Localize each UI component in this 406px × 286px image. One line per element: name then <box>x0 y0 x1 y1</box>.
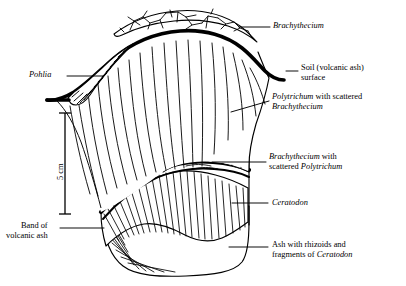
label-soil-surface-text-1: Soil (volcanic ash) <box>301 63 364 72</box>
label-soil-surface-text-2: surface <box>301 73 325 82</box>
label-ceratodon-zone: Ceratodon <box>272 198 308 208</box>
label-brachythecium-cap-text: Brachythecium <box>273 21 324 30</box>
label-ceratodon-zone-text: Ceratodon <box>272 198 308 207</box>
label-ash-rhizoids-line2: fragments of Ceratodon <box>272 250 352 260</box>
label-ash-rhizoids: Ash with rhizoids and fragments of Cerat… <box>272 240 352 261</box>
label-ash-rhizoids-text-2: fragments of <box>272 250 317 259</box>
label-brachythecium-wedge-genus: Brachythecium <box>269 152 320 161</box>
label-volcanic-ash-band: Band of volcanic ash <box>6 221 48 242</box>
label-brachythecium-wedge-line2: scattered Polytrichum <box>269 162 342 172</box>
label-ash-rhizoids-line1: Ash with rhizoids and <box>272 240 352 250</box>
label-pohlia-zone: Pohlia <box>29 70 51 80</box>
label-polytrichum-zone-associate: Brachythecium <box>272 102 323 111</box>
label-soil-surface-line1: Soil (volcanic ash) <box>301 63 364 73</box>
label-polytrichum-zone: Polytrichum with scattered Brachythecium <box>272 92 362 113</box>
label-volcanic-ash-band-text-1: Band of <box>21 221 48 230</box>
label-polytrichum-zone-genus: Polytrichum <box>272 92 313 101</box>
label-volcanic-ash-band-text-2: volcanic ash <box>6 231 48 240</box>
label-brachythecium-wedge-line1: Brachythecium with <box>269 152 342 162</box>
label-pohlia-zone-text: Pohlia <box>29 70 51 79</box>
label-brachythecium-wedge-qualifier: with <box>320 152 337 161</box>
label-soil-surface-line2: surface <box>301 73 364 83</box>
label-brachythecium-wedge-scattered: scattered <box>269 162 301 171</box>
label-soil-surface: Soil (volcanic ash) surface <box>301 63 364 84</box>
label-volcanic-ash-band-line2: volcanic ash <box>6 231 48 241</box>
label-brachythecium-cap: Brachythecium <box>273 21 324 31</box>
label-ash-rhizoids-genus: Ceratodon <box>317 250 353 259</box>
label-polytrichum-zone-line2: Brachythecium <box>272 102 362 112</box>
figure-canvas: Brachythecium Soil (volcanic ash) surfac… <box>0 0 406 286</box>
label-brachythecium-wedge-associate: Polytrichum <box>301 162 342 171</box>
label-polytrichum-zone-line1: Polytrichum with scattered <box>272 92 362 102</box>
label-volcanic-ash-band-line1: Band of <box>6 221 48 231</box>
label-ash-rhizoids-text-1: Ash with rhizoids and <box>272 240 346 249</box>
scale-bar-label: 5 cm <box>56 163 65 180</box>
label-brachythecium-wedge: Brachythecium with scattered Polytrichum <box>269 152 342 173</box>
label-polytrichum-zone-qualifier: with scattered <box>313 92 362 101</box>
